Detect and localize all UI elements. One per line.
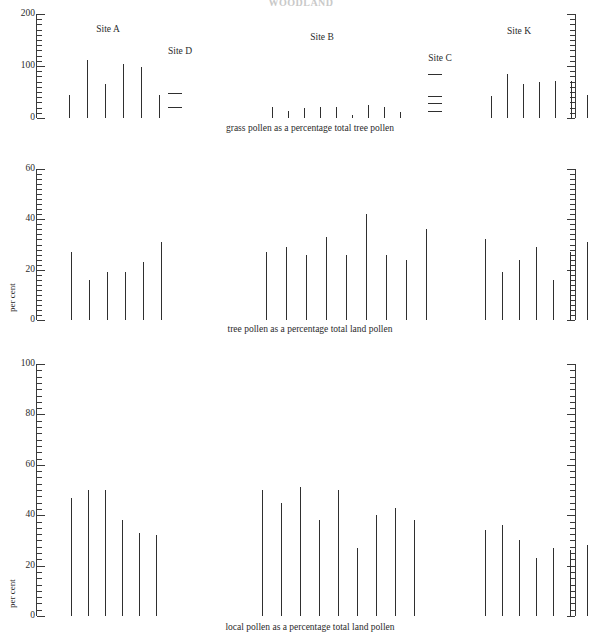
y-axis-title: per cent bbox=[8, 283, 17, 312]
axis-tick bbox=[37, 465, 45, 466]
axis-tick bbox=[37, 19, 42, 20]
axis-tick bbox=[570, 194, 575, 195]
panel-caption: local pollen as a percentage total land … bbox=[225, 623, 394, 633]
axis-tick bbox=[37, 199, 42, 200]
axis-tick bbox=[37, 616, 45, 617]
bar-mark bbox=[366, 214, 367, 320]
axis-tick bbox=[37, 82, 42, 83]
bar-mark bbox=[288, 111, 289, 118]
axis-tick bbox=[37, 92, 42, 93]
bar-mark bbox=[304, 108, 305, 118]
axis-tick bbox=[37, 547, 42, 548]
axis-tick bbox=[570, 477, 575, 478]
bar-mark bbox=[346, 255, 347, 320]
axis-tick bbox=[37, 389, 42, 390]
axis-tick bbox=[37, 275, 42, 276]
axis-spine bbox=[575, 169, 576, 320]
axis-tick bbox=[37, 224, 42, 225]
axis-tick bbox=[570, 509, 575, 510]
axis-tick bbox=[37, 102, 42, 103]
bar-mark bbox=[519, 260, 520, 320]
axis-tick bbox=[37, 603, 42, 604]
bar-mark bbox=[428, 103, 442, 104]
bar-mark bbox=[272, 107, 273, 118]
axis-tick bbox=[37, 578, 42, 579]
axis-tick bbox=[570, 214, 575, 215]
axis-tick bbox=[37, 97, 42, 98]
axis-tick-label: 20 bbox=[26, 265, 36, 275]
axis-tick bbox=[37, 509, 42, 510]
bar-mark bbox=[523, 84, 524, 118]
axis-tick bbox=[570, 528, 575, 529]
bar-mark bbox=[71, 252, 72, 320]
axis-tick bbox=[37, 76, 42, 77]
axis-tick bbox=[37, 255, 42, 256]
axis-tick bbox=[570, 71, 575, 72]
axis-tick bbox=[37, 14, 45, 15]
axis-tick bbox=[570, 30, 575, 31]
axis-tick bbox=[37, 566, 45, 567]
panel-caption: tree pollen as a percentage total land p… bbox=[228, 325, 393, 335]
axis-tick bbox=[37, 295, 42, 296]
bar-mark bbox=[587, 545, 588, 616]
bar-mark bbox=[161, 242, 162, 320]
axis-tick bbox=[37, 204, 42, 205]
bar-mark bbox=[139, 533, 140, 616]
bar-mark bbox=[300, 487, 301, 616]
bar-mark bbox=[105, 490, 106, 616]
axis-tick bbox=[570, 45, 575, 46]
bar-mark bbox=[338, 490, 339, 616]
bar-mark bbox=[122, 520, 123, 616]
bar-mark bbox=[306, 255, 307, 320]
axis-tick bbox=[570, 440, 575, 441]
bar-mark bbox=[570, 550, 571, 616]
site-label-b: Site B bbox=[310, 33, 334, 43]
bar-mark bbox=[519, 540, 520, 616]
axis-tick bbox=[37, 209, 42, 210]
axis-tick bbox=[567, 515, 575, 516]
axis-tick bbox=[37, 477, 42, 478]
bar-mark bbox=[123, 64, 124, 118]
axis-tick bbox=[570, 490, 575, 491]
axis-tick bbox=[570, 433, 575, 434]
bar-mark bbox=[426, 229, 427, 320]
bar-mark bbox=[384, 107, 385, 118]
axis-tick bbox=[570, 383, 575, 384]
axis-tick bbox=[570, 189, 575, 190]
axis-tick bbox=[37, 194, 42, 195]
axis-tick bbox=[37, 515, 45, 516]
axis-tick bbox=[37, 30, 42, 31]
axis-tick bbox=[570, 484, 575, 485]
axis-tick bbox=[570, 503, 575, 504]
bar-mark bbox=[159, 95, 160, 118]
axis-tick bbox=[37, 402, 42, 403]
axis-tick bbox=[37, 270, 45, 271]
bar-mark bbox=[286, 247, 287, 320]
axis-tick bbox=[570, 199, 575, 200]
bar-mark bbox=[570, 252, 571, 320]
bar-mark bbox=[352, 115, 353, 118]
axis-tick bbox=[570, 471, 575, 472]
axis-tick bbox=[567, 465, 575, 466]
bar-mark bbox=[143, 262, 144, 320]
axis-tick bbox=[37, 377, 42, 378]
axis-tick-label: 0 bbox=[30, 611, 35, 621]
axis-tick bbox=[570, 56, 575, 57]
axis-tick bbox=[37, 229, 42, 230]
axis-tick bbox=[567, 414, 575, 415]
bar-mark bbox=[539, 82, 540, 118]
bar-mark bbox=[89, 280, 90, 320]
axis-tick bbox=[570, 239, 575, 240]
bar-mark bbox=[168, 107, 182, 108]
axis-tick bbox=[37, 528, 42, 529]
axis-tick bbox=[37, 484, 42, 485]
axis-tick bbox=[567, 270, 575, 271]
axis-tick bbox=[570, 204, 575, 205]
axis-tick bbox=[37, 214, 42, 215]
axis-tick bbox=[37, 24, 42, 25]
axis-tick bbox=[37, 503, 42, 504]
bar-mark bbox=[368, 105, 369, 118]
axis-tick bbox=[570, 402, 575, 403]
axis-tick bbox=[570, 35, 575, 36]
figure-canvas: WOODLAND 0100200Site ASite DSite BSite C… bbox=[0, 0, 602, 639]
